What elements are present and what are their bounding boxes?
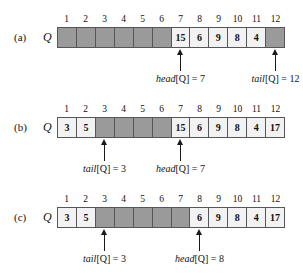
head-caption-function: head <box>156 73 175 84</box>
index-label: 10 <box>228 13 247 26</box>
index-label: 8 <box>190 13 209 26</box>
array-cell <box>58 28 77 47</box>
index-label: 3 <box>95 193 114 206</box>
array-name-b: Q <box>43 120 52 134</box>
index-label: 11 <box>247 193 266 206</box>
index-label: 6 <box>152 103 171 116</box>
queue-array-figure: (a) Q 123456789101112 156984 head[Q] = 7… <box>0 0 303 274</box>
tail-pointer-caption: tail[Q] = 3 <box>83 252 126 265</box>
index-label: 10 <box>228 193 247 206</box>
array-cell <box>96 208 115 227</box>
index-label: 4 <box>114 103 133 116</box>
index-label: 5 <box>133 13 152 26</box>
array-cell <box>96 28 115 47</box>
array-cell <box>134 28 153 47</box>
array-cell <box>115 118 134 137</box>
tail-pointer-arrow-icon <box>100 139 109 161</box>
head-pointer-caption: head[Q] = 8 <box>175 252 224 265</box>
tail-pointer-caption: tail[Q] = 3 <box>83 162 126 175</box>
index-label: 12 <box>266 103 285 116</box>
tail-caption-value: [Q] = 3 <box>96 163 126 174</box>
array-cell <box>77 28 96 47</box>
array-cell <box>153 118 172 137</box>
array-cell: 3 <box>58 208 77 227</box>
array-cell: 9 <box>209 118 228 137</box>
array-cell: 5 <box>77 118 96 137</box>
head-pointer-arrow-icon <box>176 49 185 71</box>
index-label: 9 <box>209 13 228 26</box>
tail-caption-function: tail <box>83 253 96 264</box>
index-label: 6 <box>152 193 171 206</box>
panel-label-c: (c) <box>14 211 26 224</box>
array-cell: 4 <box>247 118 266 137</box>
head-caption-value: [Q] = 8 <box>194 253 224 264</box>
tail-caption-function: tail <box>83 163 96 174</box>
tail-caption-function: tail <box>252 73 265 84</box>
array-cell: 4 <box>247 208 266 227</box>
array-cell <box>153 208 172 227</box>
index-label: 6 <box>152 13 171 26</box>
panel-a: (a) Q 123456789101112 156984 head[Q] = 7… <box>0 4 303 94</box>
array-cell <box>96 118 115 137</box>
array-name-a: Q <box>43 30 52 44</box>
array-cell: 15 <box>172 118 191 137</box>
index-label: 12 <box>266 193 285 206</box>
index-label: 2 <box>76 193 95 206</box>
array-cell <box>115 208 134 227</box>
array-cell: 9 <box>209 28 228 47</box>
tail-pointer-caption: tail[Q] = 12 <box>252 72 300 85</box>
index-label: 10 <box>228 103 247 116</box>
index-row-a: 123456789101112 <box>57 13 285 26</box>
array-cell <box>153 28 172 47</box>
index-label: 9 <box>209 103 228 116</box>
tail-pointer-arrow-icon <box>100 229 109 251</box>
array-cell: 15 <box>172 28 191 47</box>
head-pointer-arrow-icon <box>195 229 204 251</box>
index-label: 12 <box>266 13 285 26</box>
index-label: 9 <box>209 193 228 206</box>
head-pointer-caption: head[Q] = 7 <box>156 72 205 85</box>
head-caption-value: [Q] = 7 <box>175 163 205 174</box>
array-cell: 17 <box>266 208 284 227</box>
array-cell: 3 <box>58 118 77 137</box>
index-label: 4 <box>114 13 133 26</box>
array-cell: 4 <box>247 28 266 47</box>
array-cell <box>134 118 153 137</box>
array-cell <box>115 28 134 47</box>
panel-c: (c) Q 123456789101112 3515698417 tail[Q]… <box>0 184 303 274</box>
tail-pointer-arrow-icon <box>271 49 280 71</box>
index-label: 5 <box>133 193 152 206</box>
index-label: 3 <box>95 13 114 26</box>
array-cell: 8 <box>228 28 247 47</box>
head-pointer-caption: head[Q] = 7 <box>156 162 205 175</box>
index-label: 7 <box>171 13 190 26</box>
array-c: 3515698417 <box>57 207 285 228</box>
array-cell: 8 <box>228 208 247 227</box>
array-a: 156984 <box>57 27 285 48</box>
array-name-c: Q <box>43 210 52 224</box>
array-cell <box>134 208 153 227</box>
head-pointer-arrow-icon <box>176 139 185 161</box>
index-label: 4 <box>114 193 133 206</box>
index-label: 5 <box>133 103 152 116</box>
index-label: 7 <box>171 193 190 206</box>
array-cell <box>266 28 284 47</box>
tail-caption-value: [Q] = 12 <box>265 73 300 84</box>
panel-label-b: (b) <box>14 121 27 134</box>
array-b: 3515698417 <box>57 117 285 138</box>
tail-caption-value: [Q] = 3 <box>96 253 126 264</box>
index-label: 8 <box>190 103 209 116</box>
head-caption-function: head <box>175 253 194 264</box>
index-row-c: 123456789101112 <box>57 193 285 206</box>
array-cell: 5 <box>77 208 96 227</box>
head-caption-function: head <box>156 163 175 174</box>
array-cell: 9 <box>209 208 228 227</box>
index-label: 8 <box>190 193 209 206</box>
array-cell: 6 <box>190 208 209 227</box>
array-cell: 6 <box>190 28 209 47</box>
index-label: 1 <box>57 193 76 206</box>
index-label: 11 <box>247 13 266 26</box>
index-label: 1 <box>57 13 76 26</box>
index-label: 1 <box>57 103 76 116</box>
index-label: 2 <box>76 13 95 26</box>
